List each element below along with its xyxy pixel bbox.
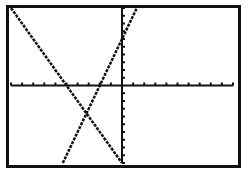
graph-screen: [0, 0, 250, 179]
